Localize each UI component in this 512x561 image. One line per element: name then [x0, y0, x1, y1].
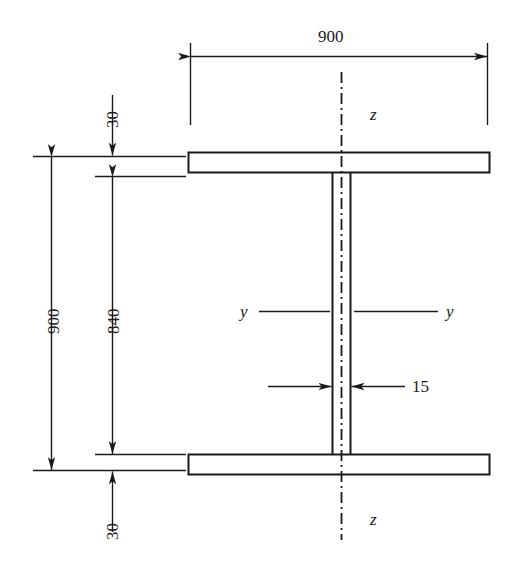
beam-outline: [189, 153, 490, 475]
width-dimension-label: 900: [318, 28, 344, 45]
depth-dimension-label: 900: [45, 309, 62, 335]
top-flange-thickness-label: 30: [104, 111, 121, 128]
top-flange: [189, 153, 490, 173]
z-axis-label-top: z: [370, 106, 377, 123]
y-axis-label-left: y: [240, 303, 248, 320]
web-depth-dimension-label: 840: [105, 309, 122, 335]
y-axis-label-right: y: [446, 303, 454, 320]
bottom-flange-thickness-label: 30: [104, 523, 121, 540]
beam-cross-section-svg: [0, 0, 512, 561]
web-thickness-label: 15: [412, 378, 429, 395]
z-axis-label-bottom: z: [370, 511, 377, 528]
width-dimension-900: [191, 43, 488, 125]
engineering-drawing-canvas: 900 900 840 30 30 15 z z y y: [0, 0, 512, 561]
bottom-flange: [189, 455, 490, 475]
